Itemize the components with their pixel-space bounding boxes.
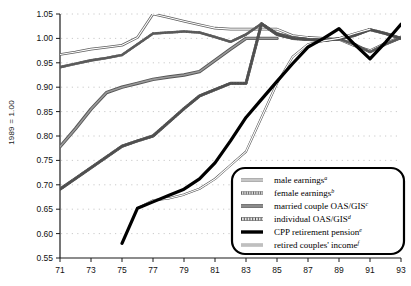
x-tick-label: 71 <box>55 265 65 275</box>
series-line <box>60 38 277 146</box>
y-tick-label: 1.00 <box>36 33 53 43</box>
y-tick-label: 0.70 <box>36 180 53 190</box>
y-tick-label: 0.85 <box>36 107 53 117</box>
y-tick-label: 0.65 <box>36 204 53 214</box>
y-tick-label: 0.80 <box>36 131 53 141</box>
y-tick-label: 0.75 <box>36 155 53 165</box>
legend-item-label: female earningsb <box>274 188 334 198</box>
legend-item-label: CPP retirement pensione <box>274 227 362 237</box>
chart-figure: 1989 = 1.00 0.550.600.650.700.750.800.85… <box>0 0 411 286</box>
x-tick-label: 93 <box>396 265 406 275</box>
chart-legend: male earningsafemale earningsbmarried co… <box>232 168 404 254</box>
legend-item-superscript: a <box>324 175 327 181</box>
legend-item-label: married couple OAS/GISc <box>274 201 368 211</box>
y-tick-label: 0.95 <box>36 58 53 68</box>
x-tick-label: 85 <box>272 265 282 275</box>
x-tick-label: 83 <box>241 265 251 275</box>
series-line-highlight <box>60 38 277 146</box>
y-tick-group: 0.550.600.650.700.750.800.850.900.951.00… <box>36 9 60 263</box>
x-tick-label: 89 <box>334 265 344 275</box>
x-tick-label: 87 <box>303 265 313 275</box>
x-tick-label: 77 <box>148 265 158 275</box>
legend-item-label: retired couples' incomef <box>274 240 361 250</box>
y-tick-label: 1.05 <box>36 9 53 19</box>
y-tick-label: 0.90 <box>36 82 53 92</box>
legend-item-label: individual OAS/GISd <box>274 214 352 224</box>
legend-item-superscript: e <box>359 227 362 233</box>
x-tick-group: 717375777981838587899193 <box>55 258 406 275</box>
series-married-couple-oas-gis <box>60 38 277 146</box>
line-chart-canvas: 0.550.600.650.700.750.800.850.900.951.00… <box>0 0 411 286</box>
x-tick-label: 81 <box>210 265 220 275</box>
x-tick-label: 75 <box>117 265 127 275</box>
legend-item-superscript: c <box>365 201 368 207</box>
legend-item-superscript: b <box>331 188 334 194</box>
x-tick-label: 79 <box>179 265 189 275</box>
legend-item-label: male earningsa <box>274 175 327 185</box>
x-tick-label: 91 <box>365 265 375 275</box>
y-tick-label: 0.60 <box>36 229 53 239</box>
y-tick-label: 0.55 <box>36 253 53 263</box>
x-tick-label: 73 <box>86 265 96 275</box>
